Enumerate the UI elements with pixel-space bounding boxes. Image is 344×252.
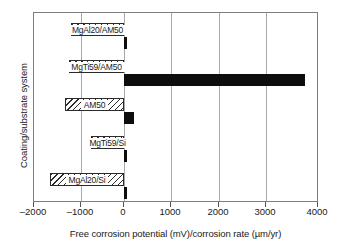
bar-potential: MgAl20/AM50 bbox=[71, 23, 124, 36]
y-axis-label: Coating/substrate system bbox=[18, 16, 29, 216]
x-tick-label: 4000 bbox=[287, 206, 344, 217]
x-axis-label: Free corrosion potential (mV)/corrosion … bbox=[33, 228, 318, 239]
bar-rate bbox=[124, 187, 127, 199]
bar-label: AM50 bbox=[81, 100, 108, 110]
bar-potential: MgAl20/Si bbox=[50, 173, 124, 186]
bar-potential: MgTi59/Si bbox=[91, 136, 124, 149]
bar-label: MgTi59/Si bbox=[86, 138, 128, 148]
bar-label: MgAl20/Si bbox=[66, 175, 109, 185]
gridline-1000 bbox=[171, 13, 172, 201]
bar-rate bbox=[124, 150, 127, 162]
plot-area: MgAl20/AM50 MgTi59/AM50 AM50 MgTi59/Si bbox=[33, 12, 318, 202]
x-tick-label: 3000 bbox=[235, 206, 295, 217]
bar-rate bbox=[124, 112, 134, 124]
bar-label: MgAl20/AM50 bbox=[69, 25, 126, 35]
bar-potential: AM50 bbox=[65, 98, 124, 111]
bar-rate bbox=[124, 74, 305, 86]
corrosion-bar-chart: Coating/substrate system MgAl20/AM50 MgT… bbox=[0, 0, 344, 252]
bar-potential: MgTi59/AM50 bbox=[69, 60, 124, 73]
gridline-3000 bbox=[266, 13, 267, 201]
gridline-2000 bbox=[219, 13, 220, 201]
bar-label: MgTi59/AM50 bbox=[68, 62, 124, 72]
bar-rate bbox=[124, 37, 127, 49]
